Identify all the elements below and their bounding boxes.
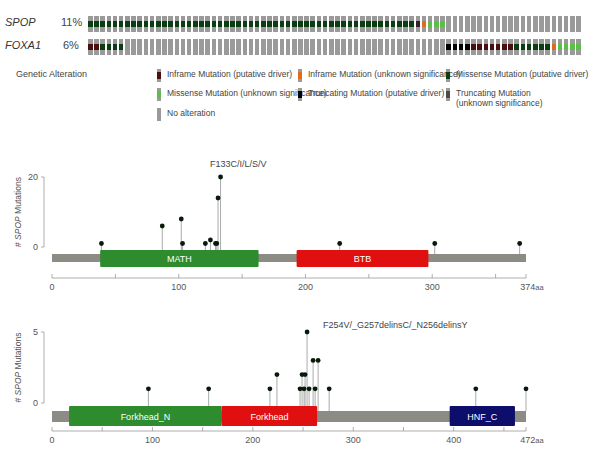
sample-cell[interactable]: [175, 39, 180, 55]
sample-cell[interactable]: [477, 39, 482, 55]
sample-cell[interactable]: [496, 16, 501, 32]
sample-cell[interactable]: [354, 39, 359, 55]
oncoprint-row-foxa1[interactable]: [88, 39, 588, 55]
sample-cell[interactable]: [378, 16, 383, 32]
sample-cell[interactable]: [304, 39, 309, 55]
sample-cell[interactable]: [113, 39, 118, 55]
sample-cell[interactable]: [434, 39, 439, 55]
sample-cell[interactable]: [391, 39, 396, 55]
sample-cell[interactable]: [187, 39, 192, 55]
sample-cell[interactable]: [576, 16, 581, 32]
sample-cell[interactable]: [175, 16, 180, 32]
sample-cell[interactable]: [230, 16, 235, 32]
sample-cell[interactable]: [576, 39, 581, 55]
sample-cell[interactable]: [243, 16, 248, 32]
sample-cell[interactable]: [298, 39, 303, 55]
lollipop-head[interactable]: [216, 196, 221, 201]
lollipop-head[interactable]: [517, 241, 522, 246]
sample-cell[interactable]: [88, 16, 93, 32]
sample-cell[interactable]: [273, 39, 278, 55]
sample-cell[interactable]: [205, 16, 210, 32]
lollipop-head[interactable]: [180, 241, 185, 246]
sample-cell[interactable]: [150, 39, 155, 55]
sample-cell[interactable]: [558, 39, 563, 55]
sample-cell[interactable]: [533, 16, 538, 32]
sample-cell[interactable]: [428, 39, 433, 55]
sample-cell[interactable]: [422, 16, 427, 32]
sample-cell[interactable]: [539, 16, 544, 32]
sample-cell[interactable]: [385, 16, 390, 32]
sample-cell[interactable]: [150, 16, 155, 32]
sample-cell[interactable]: [354, 16, 359, 32]
sample-cell[interactable]: [181, 16, 186, 32]
lollipop-head[interactable]: [275, 372, 280, 377]
sample-cell[interactable]: [218, 16, 223, 32]
sample-cell[interactable]: [545, 16, 550, 32]
lollipop-head[interactable]: [203, 241, 208, 246]
sample-cell[interactable]: [527, 39, 532, 55]
sample-cell[interactable]: [465, 16, 470, 32]
sample-cell[interactable]: [243, 39, 248, 55]
sample-cell[interactable]: [280, 39, 285, 55]
sample-cell[interactable]: [261, 39, 266, 55]
sample-cell[interactable]: [168, 39, 173, 55]
sample-cell[interactable]: [521, 16, 526, 32]
sample-cell[interactable]: [255, 39, 260, 55]
lollipop-head[interactable]: [208, 238, 213, 243]
sample-cell[interactable]: [348, 39, 353, 55]
lollipop-head[interactable]: [307, 386, 312, 391]
sample-cell[interactable]: [113, 16, 118, 32]
sample-cell[interactable]: [521, 39, 526, 55]
sample-cell[interactable]: [267, 39, 272, 55]
sample-cell[interactable]: [465, 39, 470, 55]
sample-cell[interactable]: [162, 39, 167, 55]
sample-cell[interactable]: [286, 16, 291, 32]
lollipop-head[interactable]: [313, 386, 318, 391]
sample-cell[interactable]: [409, 16, 414, 32]
sample-cell[interactable]: [372, 39, 377, 55]
sample-cell[interactable]: [453, 16, 458, 32]
sample-cell[interactable]: [100, 16, 105, 32]
lollipop-head[interactable]: [302, 386, 307, 391]
sample-cell[interactable]: [484, 39, 489, 55]
sample-cell[interactable]: [391, 16, 396, 32]
sample-cell[interactable]: [403, 16, 408, 32]
sample-cell[interactable]: [552, 39, 557, 55]
sample-cell[interactable]: [317, 39, 322, 55]
sample-cell[interactable]: [502, 16, 507, 32]
sample-cell[interactable]: [193, 16, 198, 32]
sample-cell[interactable]: [416, 16, 421, 32]
oncoprint-row-spop[interactable]: [88, 16, 588, 32]
sample-cell[interactable]: [335, 16, 340, 32]
sample-cell[interactable]: [292, 39, 297, 55]
sample-cell[interactable]: [125, 16, 130, 32]
lollipop-head[interactable]: [311, 358, 316, 363]
sample-cell[interactable]: [459, 39, 464, 55]
sample-cell[interactable]: [88, 39, 93, 55]
sample-cell[interactable]: [366, 39, 371, 55]
sample-cell[interactable]: [539, 39, 544, 55]
sample-cell[interactable]: [236, 16, 241, 32]
sample-cell[interactable]: [255, 16, 260, 32]
sample-cell[interactable]: [329, 39, 334, 55]
lollipop-head[interactable]: [99, 241, 104, 246]
sample-cell[interactable]: [514, 16, 519, 32]
lollipop-head[interactable]: [146, 386, 151, 391]
lollipop-head[interactable]: [218, 175, 223, 180]
lollipop-head[interactable]: [268, 386, 273, 391]
sample-cell[interactable]: [434, 16, 439, 32]
sample-cell[interactable]: [440, 16, 445, 32]
sample-cell[interactable]: [298, 16, 303, 32]
sample-cell[interactable]: [378, 39, 383, 55]
sample-cell[interactable]: [212, 16, 217, 32]
sample-cell[interactable]: [428, 16, 433, 32]
sample-cell[interactable]: [323, 39, 328, 55]
sample-cell[interactable]: [446, 39, 451, 55]
lollipop-head[interactable]: [432, 241, 437, 246]
sample-cell[interactable]: [564, 16, 569, 32]
lollipop-head[interactable]: [303, 372, 308, 377]
sample-cell[interactable]: [366, 16, 371, 32]
sample-cell[interactable]: [261, 16, 266, 32]
sample-cell[interactable]: [446, 16, 451, 32]
sample-cell[interactable]: [107, 39, 112, 55]
